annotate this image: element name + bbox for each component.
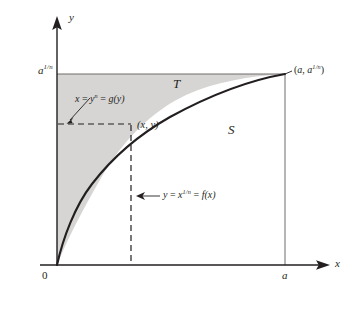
corner-point-label: (a, a1/n) (294, 64, 324, 75)
function-eq-1: = (167, 189, 178, 200)
math-figure: y x 0 a a1/n T S x = yn = g(y) y = x1/n … (0, 0, 354, 315)
x-axis-label: x (335, 258, 340, 269)
inverse-eq-1: = (79, 93, 90, 104)
corner-close: ) (321, 64, 324, 75)
function-eq-2: = (191, 189, 202, 200)
region-label-S: S (228, 123, 235, 136)
region-label-T: T (173, 77, 180, 90)
origin-label: 0 (42, 270, 48, 281)
inverse-eq-2: = (98, 93, 109, 104)
y-axis-label: y (69, 12, 74, 23)
function-rhs: f(x) (202, 189, 216, 200)
function-label: y = x1/n = f(x) (163, 189, 216, 200)
figure-canvas (0, 0, 354, 315)
inverse-rhs: g(y) (108, 93, 124, 104)
y-tick-exponent: 1/n (44, 63, 53, 70)
y-tick-label-a-pow: a1/n (38, 64, 53, 76)
corner-y-exponent: 1/n (312, 63, 321, 70)
x-tick-label-a: a (282, 270, 288, 281)
corner-label-leader-line (285, 71, 292, 74)
function-exponent: 1/n (183, 188, 192, 195)
point-label-xy: (x, y) (137, 120, 159, 131)
inverse-function-label: x = yn = g(y) (75, 93, 125, 104)
